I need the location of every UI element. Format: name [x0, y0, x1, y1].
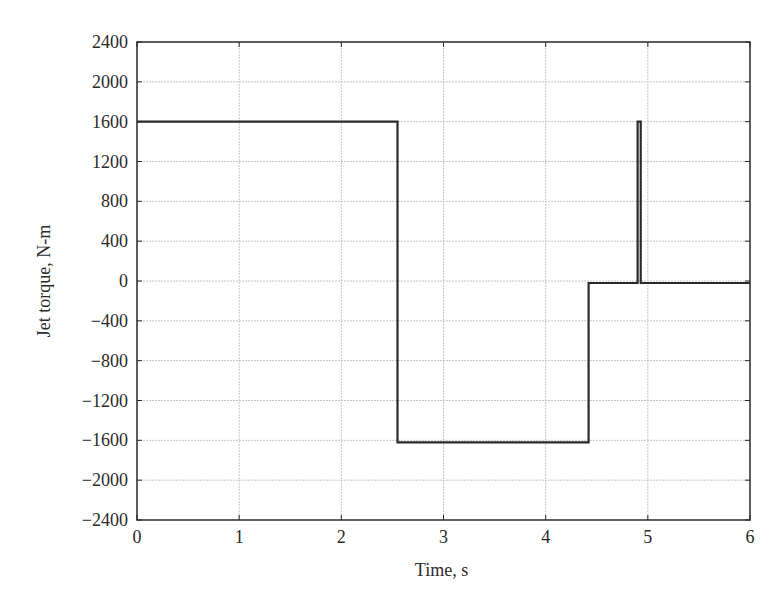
y-tick-label: −1600	[82, 430, 128, 450]
y-tick-label: 0	[119, 271, 128, 291]
y-axis-label: Jet torque, N-m	[34, 225, 54, 337]
y-tick-label: −1200	[82, 391, 128, 411]
grid-lines	[137, 42, 750, 520]
x-axis-label: Time, s	[415, 560, 468, 580]
x-tick-label: 2	[337, 527, 346, 547]
y-tick-label: 400	[101, 231, 128, 251]
x-tick-label: 5	[643, 527, 652, 547]
y-tick-label: 1600	[92, 112, 128, 132]
y-tick-label: −2000	[82, 470, 128, 490]
y-tick-label: 800	[101, 191, 128, 211]
y-tick-label: 2400	[92, 32, 128, 52]
x-tick-label: 1	[235, 527, 244, 547]
y-tick-label: 1200	[92, 152, 128, 172]
y-tick-label: 2000	[92, 72, 128, 92]
x-tick-label: 6	[746, 527, 755, 547]
x-tick-label: 0	[133, 527, 142, 547]
x-tick-label: 4	[541, 527, 550, 547]
y-tick-label: −2400	[82, 510, 128, 530]
y-tick-label: −800	[91, 351, 128, 371]
chart: 24002000160012008004000−400−800−1200−160…	[0, 0, 784, 607]
x-tick-label: 3	[439, 527, 448, 547]
y-tick-label: −400	[91, 311, 128, 331]
